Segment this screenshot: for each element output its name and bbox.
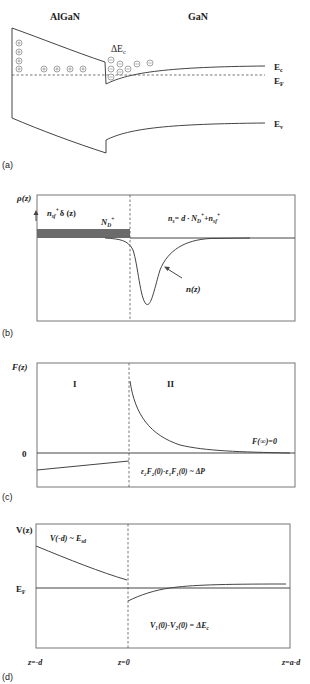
panel-b-charge-density: ρ(z) nsf+δ (z) ND+ ns= d · ND++nsf+ n(z)… [2, 193, 295, 338]
panel-c-label: (c) [2, 492, 13, 502]
ev-label: Ev [274, 119, 283, 130]
panel-a-label: (a) [2, 160, 13, 170]
xtick-a-minus-d: z=a-d [281, 658, 301, 667]
ef-label: EF [274, 76, 284, 87]
ec-label: Ec [274, 62, 283, 73]
positive-ions [16, 40, 86, 72]
panel-d-potential: V(z) V(-d) ~ Esd EF V₁(0)-V₂(0) = ΔEc z=… [2, 524, 301, 682]
xtick-zero: z=0 [117, 658, 130, 667]
algan-label: AlGaN [50, 11, 81, 22]
potential-region-1 [36, 546, 127, 580]
potential-boundary-equation: V₁(0)-V₂(0) = ΔEc [150, 621, 209, 631]
field-region-1 [37, 461, 129, 470]
region-1-label: I [73, 379, 77, 389]
potential-region-2 [128, 584, 286, 601]
donor-charge-bar [37, 229, 130, 238]
gan-valence-band [106, 123, 265, 140]
delta-ec-label: ΔEc [111, 44, 126, 55]
ef-label: EF [16, 584, 26, 595]
rho-axis-label: ρ(z) [16, 193, 31, 203]
conduction-band-offset [105, 62, 106, 84]
field-axis-label: F(z) [11, 362, 28, 372]
delta-term-label: nsf+δ (z) [47, 207, 76, 219]
f-infinity-label: F(∞)=0 [251, 437, 277, 446]
vd-label: V(-d) ~ Esd [50, 534, 86, 544]
zero-tick: 0 [22, 449, 27, 459]
xtick-minus-d: z=-d [27, 658, 43, 667]
electrons-2deg [108, 57, 153, 80]
panel-d-label: (d) [2, 672, 13, 682]
nz-label: n(z) [186, 284, 201, 294]
ns-equation: ns= d · ND++nsf+ [168, 212, 220, 224]
panel-b-label: (b) [2, 328, 13, 338]
gan-label: GaN [188, 11, 209, 22]
electron-density-curve [105, 238, 250, 305]
up-arrow-icon [34, 210, 39, 215]
panel-c-electric-field: F(z) 0 I II F(∞)=0 ε₂F₂(0)-ε₁F₁(0) ~ ΔP … [2, 362, 295, 502]
algan-valence-band [12, 118, 106, 153]
region-2-label: II [167, 379, 175, 389]
potential-axis-label: V(z) [16, 525, 33, 535]
algan-conduction-band [12, 28, 105, 62]
nd-label: ND+ [100, 216, 114, 228]
panel-a-band-diagram: AlGaN GaN [2, 11, 284, 170]
band-diagram-figure: AlGaN GaN [0, 0, 310, 684]
field-boundary-equation: ε₂F₂(0)-ε₁F₁(0) ~ ΔP [141, 467, 205, 476]
